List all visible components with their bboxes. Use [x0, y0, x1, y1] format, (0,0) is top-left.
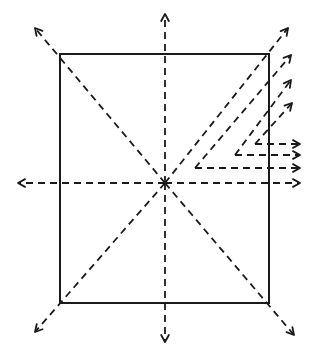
- radial-arrow-down-left: [35, 183, 165, 332]
- arrowhead-icon: [284, 55, 291, 63]
- radial-arrow-right: [165, 179, 300, 187]
- arrowhead-icon: [18, 179, 25, 187]
- horizontal-arrow-2: [195, 164, 300, 172]
- arrowhead-icon: [293, 179, 300, 187]
- parallel-diagonal-arrow-0: [195, 55, 291, 168]
- horizontal-arrow-0: [255, 140, 300, 148]
- radial-arrow-up-left: [35, 28, 165, 183]
- radial-arrow-down: [161, 183, 169, 342]
- radial-arrow-up: [161, 14, 169, 183]
- horizontal-arrows: [195, 140, 300, 172]
- parallel-diagonal-arrow-2: [255, 103, 292, 144]
- parallel-diagonal-arrows: [195, 55, 292, 168]
- arrowhead-icon: [161, 335, 169, 342]
- horizontal-arrow-1: [235, 151, 300, 159]
- radial-arrow-down-right: [165, 183, 294, 335]
- arrowhead-icon: [161, 14, 169, 21]
- radial-arrow-left: [18, 179, 165, 187]
- diagram-canvas: [0, 0, 317, 355]
